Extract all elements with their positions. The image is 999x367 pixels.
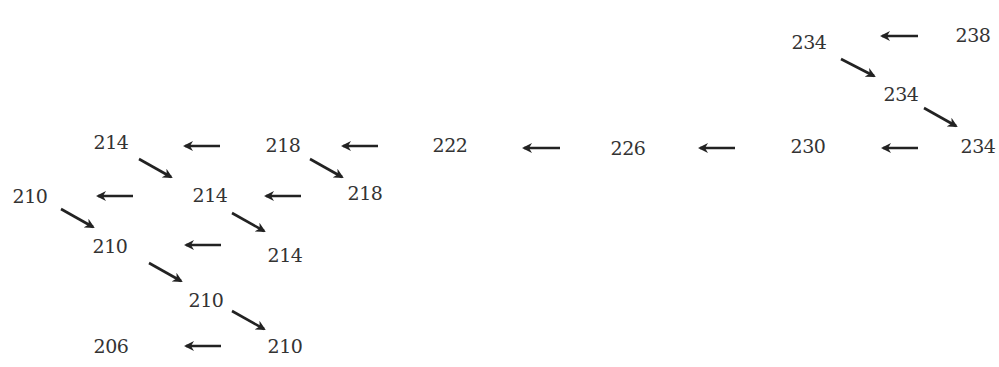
node-value: 230 bbox=[791, 135, 826, 157]
node-value: 210 bbox=[93, 235, 128, 257]
node-value: 214 bbox=[193, 184, 228, 206]
down-right-arrow-icon bbox=[310, 159, 342, 177]
node-value: 214 bbox=[268, 244, 303, 266]
node-value: 206 bbox=[94, 335, 129, 357]
node-value: 210 bbox=[13, 185, 48, 207]
down-right-arrow-icon bbox=[139, 159, 171, 177]
node-value: 210 bbox=[268, 335, 303, 357]
node-value: 234 bbox=[961, 135, 996, 157]
down-right-arrow-icon bbox=[232, 311, 264, 329]
node-value: 214 bbox=[94, 131, 129, 153]
node-value: 226 bbox=[611, 137, 646, 159]
node-value: 218 bbox=[266, 134, 301, 156]
node-value: 234 bbox=[792, 31, 827, 53]
node-value: 222 bbox=[433, 134, 468, 156]
node-value: 218 bbox=[348, 182, 383, 204]
down-right-arrow-icon bbox=[841, 59, 874, 76]
down-right-arrow-icon bbox=[61, 209, 93, 227]
down-right-arrow-icon bbox=[924, 108, 956, 126]
down-right-arrow-icon bbox=[149, 263, 181, 281]
node-value: 234 bbox=[884, 83, 919, 105]
node-value: 210 bbox=[189, 289, 224, 311]
node-value: 238 bbox=[956, 24, 991, 46]
arrows-layer bbox=[0, 0, 999, 367]
down-right-arrow-icon bbox=[232, 213, 264, 231]
